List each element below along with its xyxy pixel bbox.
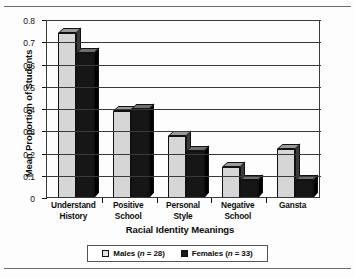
y-axis-tick-label: 0.3: [23, 127, 35, 137]
y-axis-tick-label: 0.5: [23, 83, 35, 93]
y-axis-tick: 0.1: [42, 176, 47, 177]
y-axis-tick: 0.6: [42, 65, 47, 66]
bar-face-face: [222, 167, 240, 198]
bar-side-face: [149, 103, 154, 198]
figure-container: Mean Proportion of Students 0.80.70.60.5…: [0, 0, 355, 278]
bar-males-2: [168, 136, 186, 198]
bar-males-3: [222, 167, 240, 198]
bar-face-face: [277, 149, 295, 198]
gridline: [47, 42, 321, 43]
gridline: [47, 131, 321, 132]
legend-item-males: Males (n = 28): [102, 249, 164, 258]
y-axis-tick: 0.3: [42, 131, 47, 132]
bottom-rule: [4, 268, 351, 269]
bar-females-3: [240, 180, 258, 198]
y-axis-tick: 0.5: [42, 87, 47, 88]
x-axis-title: Racial Identity Meanings: [30, 224, 330, 235]
bar-face-face: [168, 136, 186, 198]
plot-area: 0.80.70.60.50.40.30.20.10: [46, 20, 320, 198]
category-label-line: School: [201, 211, 275, 222]
legend-swatch-males: [102, 250, 109, 257]
y-axis-tick: 0.8: [42, 20, 47, 21]
chart-legend: Males (n = 28) Females (n = 33): [87, 245, 268, 262]
y-axis-tick-label: 0.7: [23, 38, 35, 48]
legend-item-females: Females (n = 33): [181, 249, 253, 258]
x-axis-category-label: Gansta: [256, 200, 330, 211]
bar-males-1: [113, 111, 131, 198]
bar-females-2: [186, 151, 204, 198]
y-axis-tick: 0.2: [42, 154, 47, 155]
y-axis-tick-label: 0.2: [23, 150, 35, 160]
y-axis-tick-label: 0.4: [23, 105, 35, 115]
gridline: [47, 109, 321, 110]
legend-label-males: Males (n = 28): [113, 249, 164, 258]
top-rule: [4, 6, 351, 7]
y-axis-tick: 0.4: [42, 109, 47, 110]
legend-swatch-females: [181, 250, 188, 257]
gridline: [47, 20, 321, 21]
gridline: [47, 176, 321, 177]
y-axis-tick-label: 0.1: [23, 172, 35, 182]
gridline: [47, 87, 321, 88]
bar-face-face: [186, 151, 204, 198]
bar-face-face: [295, 180, 313, 198]
y-axis-tick: 0.7: [42, 42, 47, 43]
bar-face-face: [240, 180, 258, 198]
bar-face-face: [58, 33, 76, 198]
y-axis-tick: 0: [42, 198, 47, 199]
y-axis-tick-label: 0: [30, 194, 35, 204]
bar-males-0: [58, 33, 76, 198]
bar-males-4: [277, 149, 295, 198]
gridline: [47, 154, 321, 155]
category-label-line: Gansta: [256, 200, 330, 211]
bar-females-4: [295, 180, 313, 198]
legend-label-females: Females (n = 33): [192, 249, 253, 258]
gridline: [47, 65, 321, 66]
y-axis-tick-label: 0.8: [23, 16, 35, 26]
bar-face-face: [113, 111, 131, 198]
y-axis-tick-label: 0.6: [23, 61, 35, 71]
